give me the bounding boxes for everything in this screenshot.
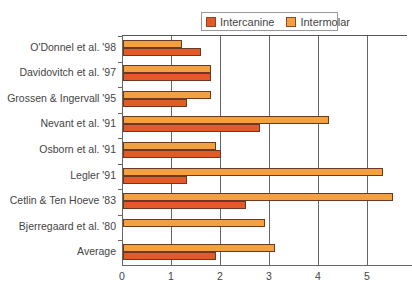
x-axis	[122, 265, 412, 266]
y-tick	[118, 189, 122, 190]
chart-legend: Intercanine Intermolar	[201, 12, 338, 31]
bar-intermolar	[123, 219, 265, 227]
bar-intercanine	[123, 176, 187, 184]
x-tick-label: 4	[315, 270, 321, 282]
gridline	[269, 36, 270, 266]
category-label: O'Donnel et al. '98	[30, 41, 116, 53]
bar-intermolar	[123, 168, 383, 176]
category-label: Nevant et al. '91	[40, 117, 116, 129]
bar-intermolar	[123, 116, 329, 124]
category-label: Average	[77, 245, 116, 257]
bar-intermolar	[123, 40, 182, 48]
category-label: Grossen & Ingervall '95	[7, 92, 116, 104]
legend-swatch-intermolar	[286, 17, 296, 27]
gridline	[318, 36, 319, 266]
category-label: Bjerregaard et al. '80	[19, 220, 116, 232]
gridline	[367, 36, 368, 266]
legend-swatch-intercanine	[206, 17, 216, 27]
y-tick	[118, 164, 122, 165]
x-tick-label: 5	[364, 270, 370, 282]
bar-intermolar	[123, 65, 211, 73]
legend-label: Intermolar	[300, 16, 350, 28]
bar-intermolar	[123, 91, 211, 99]
category-label: Cetlin & Ten Hoeve '83	[10, 194, 116, 206]
y-tick	[118, 113, 122, 114]
category-label: Osborn et al. '91	[39, 143, 116, 155]
plot-area	[122, 35, 407, 266]
bar-intermolar	[123, 193, 393, 201]
y-tick	[118, 62, 122, 63]
bar-intercanine	[123, 201, 246, 209]
category-label: Davidovitch et al. '97	[19, 66, 116, 78]
y-tick	[118, 87, 122, 88]
bar-intercanine	[123, 73, 211, 81]
category-label: Legler '91	[70, 169, 116, 181]
x-tick-label: 0	[119, 270, 125, 282]
x-tick-label: 1	[168, 270, 174, 282]
y-tick	[118, 215, 122, 216]
x-tick-label: 3	[266, 270, 272, 282]
bar-intercanine	[123, 48, 201, 56]
bar-intermolar	[123, 142, 216, 150]
bar-intercanine	[123, 124, 260, 132]
legend-item-intermolar: Intermolar	[286, 16, 350, 28]
bar-intercanine	[123, 150, 221, 158]
x-tick-label: 2	[217, 270, 223, 282]
bar-intercanine	[123, 252, 216, 260]
y-tick	[118, 138, 122, 139]
legend-label: Intercanine	[220, 16, 274, 28]
y-tick	[118, 36, 122, 37]
bar-intermolar	[123, 244, 275, 252]
legend-item-intercanine: Intercanine	[206, 16, 274, 28]
bar-intercanine	[123, 99, 187, 107]
y-tick	[118, 240, 122, 241]
